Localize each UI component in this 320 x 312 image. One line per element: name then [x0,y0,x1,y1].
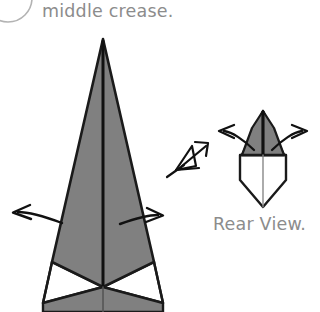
diagram-artwork [0,0,320,312]
diagram-page: middle crease. Rear View. [0,0,320,312]
rear-view-figure [240,111,286,207]
main-model-figure [43,39,163,312]
view-direction-eye-symbol [167,142,208,177]
instruction-caption: middle crease. [42,0,174,23]
arrow-left-open [13,205,62,223]
rear-view-caption: Rear View. [213,212,306,236]
step-number-badge [0,0,32,22]
